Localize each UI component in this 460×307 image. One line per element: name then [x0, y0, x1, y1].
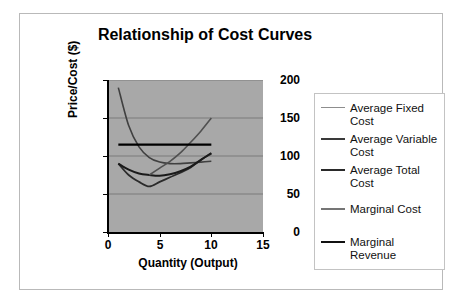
legend-line-icon — [321, 236, 345, 248]
curve-average-variable-cost — [118, 154, 211, 187]
plot-wrapper: Price/Cost ($) 200 150 100 50 0 — [68, 66, 300, 256]
legend-line-icon — [321, 133, 345, 145]
legend-line-icon — [321, 203, 345, 215]
legend-line-icon — [321, 102, 345, 114]
legend-item: Average Fixed Cost — [321, 102, 440, 128]
legend-item: Marginal Cost — [321, 203, 440, 216]
plot-curves — [108, 80, 263, 232]
x-tick-label: 5 — [148, 238, 172, 252]
y-axis-title: Price/Cost ($) — [66, 41, 80, 118]
legend-item: Average Total Cost — [321, 164, 440, 190]
x-tick-mark — [108, 233, 109, 237]
plot-area — [108, 80, 263, 232]
legend-item-label: Marginal Cost — [350, 203, 421, 216]
legend-item-label: Average Variable Cost — [350, 133, 440, 159]
x-axis-line — [107, 232, 264, 234]
y-axis-line — [107, 80, 109, 233]
x-axis-title: Quantity (Output) — [88, 256, 288, 270]
x-tick-mark — [263, 233, 264, 237]
y-tick-label: 0 — [266, 227, 300, 237]
y-tick-label: 150 — [266, 113, 300, 123]
legend-line-icon — [321, 164, 345, 176]
chart-title: Relationship of Cost Curves — [60, 26, 350, 44]
x-tick-label: 10 — [199, 238, 223, 252]
legend-item-label: Average Fixed Cost — [350, 102, 440, 128]
y-tick-label: 50 — [266, 189, 300, 199]
y-tick-label: 200 — [266, 75, 300, 85]
legend-item-label: Marginal Revenue — [350, 236, 440, 262]
legend-item: Average Variable Cost — [321, 133, 440, 159]
curve-group — [118, 88, 211, 187]
chart-screenshot: Relationship of Cost Curves Price/Cost (… — [0, 0, 460, 307]
curve-marginal-cost — [149, 118, 211, 175]
x-tick-label: 0 — [96, 238, 120, 252]
y-tick-label: 100 — [266, 151, 300, 161]
x-tick-mark — [160, 233, 161, 237]
legend-item-label: Average Total Cost — [350, 164, 440, 190]
chart-frame: Relationship of Cost Curves Price/Cost (… — [19, 13, 443, 290]
x-tick-label: 15 — [251, 238, 275, 252]
chart-legend: Average Fixed Cost Average Variable Cost… — [314, 93, 445, 270]
legend-item: Marginal Revenue — [321, 236, 440, 262]
x-tick-mark — [211, 233, 212, 237]
curve-average-fixed-cost — [118, 88, 211, 164]
